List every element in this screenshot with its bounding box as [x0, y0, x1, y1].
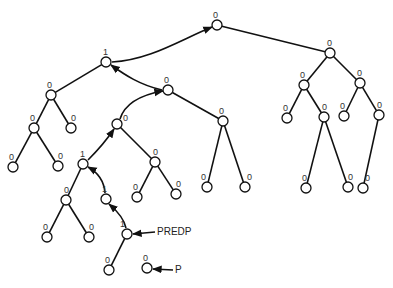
node-tag-label: 0 [30, 114, 35, 123]
node-tag-label: 0 [348, 173, 353, 182]
tree-edge [334, 57, 357, 80]
tree-edge [69, 204, 87, 233]
tree-node [42, 232, 52, 242]
node-tag-label: 0 [377, 101, 382, 110]
node-tag-label: 0 [164, 76, 169, 85]
tree-node [282, 113, 292, 123]
tree-edge [36, 99, 48, 123]
pointer-arrow [153, 269, 173, 270]
tree-node [212, 20, 222, 30]
tree-node [339, 111, 349, 121]
node-tag-label: 0 [340, 102, 345, 111]
tree-node [319, 112, 329, 122]
tree-node [343, 182, 353, 192]
node-tag-label: 0 [357, 69, 362, 78]
node-tag-label: 0 [283, 104, 288, 113]
tree-node [66, 123, 76, 133]
node-tag-label: 0 [47, 81, 52, 90]
tree-edge [326, 122, 347, 183]
tree-node [61, 195, 71, 205]
node-tag-label: 1 [80, 150, 85, 159]
tree-node [104, 265, 114, 275]
tree-node [171, 189, 181, 199]
tree-edge [222, 26, 325, 52]
thread-arrow [112, 27, 212, 62]
tree-edge [37, 132, 56, 162]
tree-node [240, 182, 250, 192]
node-tag-label: 0 [247, 173, 252, 182]
node-tag-label: 0 [71, 114, 76, 123]
node-tag-label: 0 [327, 39, 332, 48]
node-tag-label: 0 [143, 254, 148, 263]
node-tag-label: 0 [300, 71, 305, 80]
tree-node [53, 161, 63, 171]
tree-node [355, 78, 365, 88]
tree-edge [49, 204, 63, 232]
node-tag-label: 0 [43, 223, 48, 232]
node-tag-label: 0 [105, 256, 110, 265]
tree-edge [208, 126, 222, 182]
tree-node [299, 80, 309, 90]
tree-edge [111, 238, 125, 265]
tree-edge [158, 166, 174, 190]
node-tag-label: 1 [102, 185, 107, 194]
tree-node [122, 229, 132, 239]
tree-node [325, 48, 335, 58]
tree-edge [346, 87, 358, 111]
node-tag-label: 0 [322, 103, 327, 112]
tree-edge [15, 132, 31, 162]
node-tag-label: 0 [213, 11, 218, 20]
node-tag-label: 0 [153, 148, 158, 157]
node-tag-label: 1 [103, 48, 108, 57]
tree-node [112, 119, 122, 129]
tree-node [218, 116, 228, 126]
node-tag-label: 0 [302, 174, 307, 183]
thread-arrow [111, 65, 162, 90]
tree-edge [225, 126, 244, 183]
tree-edge [68, 169, 81, 196]
tree-node [46, 90, 56, 100]
tree-edge [172, 92, 218, 118]
tree-node [301, 183, 311, 193]
tree-edge [307, 122, 323, 183]
node-tag-label: 0 [365, 174, 370, 183]
tree-node [358, 183, 368, 193]
tree-node [84, 232, 94, 242]
thread-arrow [88, 129, 114, 160]
tree-node [29, 123, 39, 133]
tree-node [101, 57, 111, 67]
tree-edge [139, 166, 152, 192]
tree-edge [121, 128, 152, 159]
tree-edge [54, 99, 69, 123]
pointer-label-p: P [175, 265, 182, 275]
tree-node [78, 159, 88, 169]
node-tag-label: 0 [133, 183, 138, 192]
node-tag-label: 0 [176, 180, 181, 189]
node-tag-label: 0 [9, 153, 14, 162]
pointer-arrow [133, 232, 155, 234]
node-tag-label: 0 [89, 223, 94, 232]
tree-edge [289, 89, 301, 113]
tree-edge [307, 89, 322, 113]
tree-canvas [0, 0, 393, 288]
node-tag-label: 0 [58, 152, 63, 161]
tree-node [163, 85, 173, 95]
node-tag-label: 0 [201, 173, 206, 182]
threaded-tree-diagram: PREDPP010000000000000100011000000000000 [0, 0, 393, 288]
pointer-label-predp: PREDP [157, 227, 191, 237]
tree-node [142, 263, 152, 273]
tree-node [150, 157, 160, 167]
node-tag-label: 0 [219, 107, 224, 116]
tree-node [132, 192, 142, 202]
node-tag-label: 0 [123, 114, 128, 123]
tree-node [374, 110, 384, 120]
tree-node [101, 194, 111, 204]
tree-node [8, 162, 18, 172]
tree-edge [55, 65, 101, 93]
tree-edge [363, 87, 377, 110]
node-tag-label: 1 [120, 220, 125, 229]
node-tag-label: 0 [64, 186, 69, 195]
tree-node [202, 182, 212, 192]
tree-edge [307, 57, 327, 81]
